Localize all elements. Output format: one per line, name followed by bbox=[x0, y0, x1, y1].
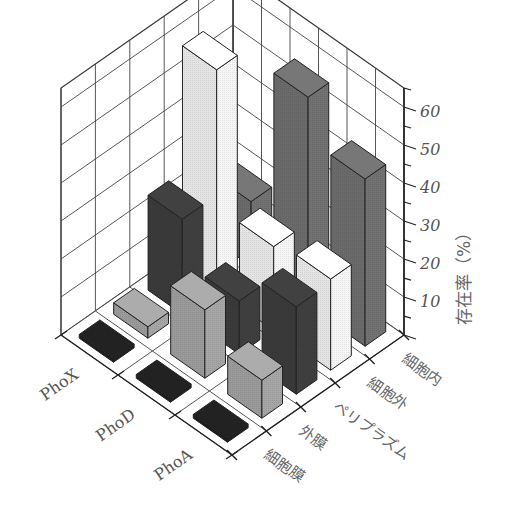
z-tick-label: 40 bbox=[419, 178, 440, 197]
z-tick-label: 20 bbox=[419, 254, 440, 273]
row-label: 細胞膜 bbox=[261, 446, 308, 487]
z-axis-title: 存在率（%） bbox=[454, 224, 474, 325]
z-tick-label: 30 bbox=[420, 216, 440, 235]
column-label: PhoA bbox=[150, 444, 196, 484]
z-tick-label: 10 bbox=[420, 292, 440, 311]
column-label: PhoX bbox=[36, 364, 82, 404]
bar-chart-3d: 102030405060 存在率（%） PhoXPhoDPhoA 細胞膜外膜ペリ… bbox=[0, 0, 526, 519]
row-label: 外膜 bbox=[295, 422, 330, 454]
z-tick-label: 50 bbox=[420, 140, 440, 159]
z-axis-tick-labels: 102030405060 bbox=[419, 102, 440, 311]
z-tick-label: 60 bbox=[420, 102, 440, 121]
column-label: PhoD bbox=[92, 405, 139, 446]
row-label: 細胞外 bbox=[364, 374, 411, 415]
row-label: 細胞内 bbox=[399, 350, 446, 391]
